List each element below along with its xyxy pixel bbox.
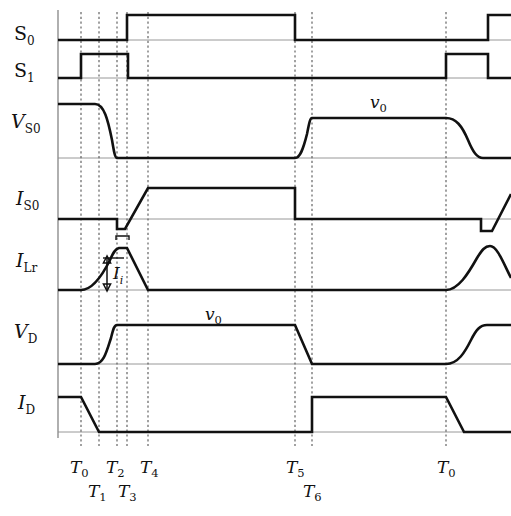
time-label-T4: T4 (140, 457, 159, 480)
signal-label-id: ID (17, 391, 35, 417)
waveform-is0 (58, 188, 511, 231)
vo-label-vs0: v0 (370, 92, 387, 115)
waveform-vs0 (58, 104, 511, 158)
signal-label-ilr: ILr (15, 249, 37, 275)
time-label-T6: T6 (303, 481, 322, 504)
waveform-vd (58, 325, 511, 364)
signal-label-vd: VD (14, 320, 37, 346)
waveform-s0 (58, 15, 511, 40)
signal-label-vs0: VS0 (11, 110, 41, 136)
waveform-canvas: Ii v0 v0 S0 S1 VS0 IS0 ILr VD ID (0, 0, 511, 516)
time-label-T1: T1 (88, 481, 107, 504)
waveform-s1 (58, 54, 511, 78)
time-label-T2: T2 (106, 457, 125, 480)
waveform-ilr (58, 246, 511, 290)
time-label-T0-last: T0 (437, 457, 456, 480)
timing-diagram: Ii v0 v0 S0 S1 VS0 IS0 ILr VD ID (0, 0, 511, 516)
signal-label-s1: S1 (14, 59, 35, 85)
vo-label-vd: v0 (205, 304, 222, 327)
signal-label-s0: S0 (14, 22, 35, 48)
ii-label: Ii (112, 263, 123, 287)
time-label-T5: T5 (286, 457, 305, 480)
time-label-T0-first: T0 (70, 457, 89, 480)
signal-label-is0: IS0 (15, 187, 39, 213)
time-label-T3: T3 (118, 481, 137, 504)
ii-annotation-group: Ii (103, 236, 129, 291)
waveform-id (58, 397, 511, 432)
